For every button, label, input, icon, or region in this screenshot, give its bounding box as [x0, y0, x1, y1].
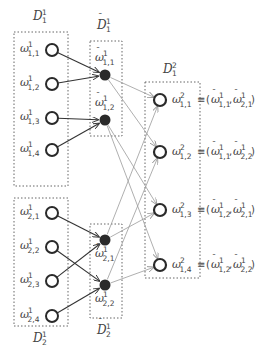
svg-text:2,3: 2,3 — [28, 280, 40, 289]
merged-label-wt12: ω¯11,2 — [95, 92, 115, 112]
output-node-o12 — [154, 146, 166, 158]
merged-node-wt22 — [100, 280, 111, 291]
svg-text:1,1: 1,1 — [28, 49, 40, 58]
input-label-w22: ω12,2 — [20, 237, 40, 255]
group-label-D1-1: D11 — [32, 8, 47, 25]
svg-text:¯: ¯ — [234, 89, 238, 98]
input-node-w21 — [46, 207, 58, 219]
svg-text:¯: ¯ — [212, 89, 216, 98]
edge-wt21-o13 — [110, 213, 154, 237]
svg-text:¯: ¯ — [96, 288, 100, 297]
svg-text:1,2: 1,2 — [180, 152, 192, 161]
labels: ω11,1ω11,2ω11,3ω11,4ω12,1ω12,2ω12,3ω12,4… — [20, 8, 255, 347]
output-node-o13 — [154, 204, 166, 216]
group-label-Dtilde2-1: D¯12 — [96, 317, 111, 339]
input-label-w23: ω12,3 — [20, 271, 40, 289]
input-node-w24 — [46, 310, 58, 322]
svg-text:,: , — [229, 94, 232, 105]
output-b-o13: ω¯12,1 — [233, 199, 253, 219]
input-node-w14 — [46, 144, 58, 156]
output-omega-o14: ω21,4 — [172, 256, 192, 274]
svg-text:): ) — [251, 259, 255, 270]
svg-text:1,4: 1,4 — [28, 149, 40, 158]
svg-text:¯: ¯ — [212, 141, 216, 150]
svg-text:,: , — [229, 204, 232, 215]
output-label-o12: ω21,2≡(ω¯11,1,ω¯12,2) — [172, 141, 255, 161]
svg-text:¯: ¯ — [98, 12, 103, 22]
svg-text:): ) — [251, 204, 255, 215]
edges — [57, 53, 158, 313]
input-label-w24: ω12,4 — [20, 306, 40, 324]
output-b-o14: ω¯12,2 — [233, 254, 253, 274]
svg-text:(: ( — [206, 259, 210, 270]
svg-text:¯: ¯ — [212, 254, 216, 263]
output-node-o14 — [154, 259, 166, 271]
svg-text:1,3: 1,3 — [180, 210, 192, 219]
svg-text:1,4: 1,4 — [180, 265, 192, 274]
group-label-D1-2: D21 — [162, 61, 177, 78]
output-label-o13: ω21,3≡(ω¯11,2,ω¯12,1) — [172, 199, 255, 219]
svg-text:¯: ¯ — [234, 254, 238, 263]
output-label-o11: ω21,1≡(ω¯11,1,ω¯12,1) — [172, 89, 255, 109]
svg-text:2,2: 2,2 — [103, 299, 115, 308]
svg-text:2,1: 2,1 — [28, 212, 40, 221]
edge-w13-wt12 — [58, 118, 98, 120]
svg-text:,: , — [229, 146, 232, 157]
svg-text:≡: ≡ — [197, 146, 205, 157]
group-box-D1-1 — [14, 32, 68, 186]
svg-text:): ) — [251, 146, 255, 157]
svg-text:¯: ¯ — [234, 141, 238, 150]
svg-text:): ) — [251, 94, 255, 105]
input-label-w12: ω11,2 — [20, 74, 40, 92]
edge-w12-wt11 — [58, 76, 98, 83]
edge-w11-wt11 — [57, 53, 98, 72]
edge-wt12-o14 — [107, 126, 157, 259]
edge-wt22-o14 — [111, 267, 154, 283]
output-label-o14: ω21,4≡(ω¯11,2,ω¯12,2) — [172, 254, 255, 274]
input-node-w22 — [46, 241, 58, 253]
group-label-Dtilde1-1: D¯11 — [96, 12, 111, 34]
input-label-w13: ω11,3 — [20, 108, 40, 126]
output-a-o13: ω¯11,2 — [211, 199, 231, 219]
input-node-w11 — [46, 44, 58, 56]
svg-text:≡: ≡ — [197, 259, 205, 270]
output-b-o12: ω¯12,2 — [233, 141, 253, 161]
input-label-w11: ω11,1 — [20, 40, 40, 58]
svg-text:1: 1 — [106, 25, 111, 34]
svg-text:2,4: 2,4 — [28, 315, 40, 324]
svg-text:¯: ¯ — [96, 243, 100, 252]
svg-text:¯: ¯ — [212, 199, 216, 208]
svg-text:1: 1 — [42, 16, 47, 25]
nodes — [46, 44, 166, 322]
svg-text:1: 1 — [172, 69, 177, 78]
output-a-o11: ω¯11,1 — [211, 89, 231, 109]
edge-wt11-o11 — [110, 77, 153, 97]
svg-text:(: ( — [206, 204, 210, 215]
svg-text:1,1: 1,1 — [180, 100, 192, 109]
svg-text:(: ( — [206, 94, 210, 105]
merged-node-wt11 — [100, 70, 111, 81]
svg-text:1,2: 1,2 — [28, 83, 40, 92]
edge-w21-wt21 — [57, 216, 98, 237]
output-omega-o13: ω21,3 — [172, 201, 192, 219]
input-label-w21: ω12,1 — [20, 203, 40, 221]
svg-text:≡: ≡ — [197, 204, 205, 215]
group-label-D2-1: D12 — [32, 330, 47, 347]
output-omega-o12: ω21,2 — [172, 143, 192, 161]
input-node-w23 — [46, 275, 58, 287]
svg-text:¯: ¯ — [234, 199, 238, 208]
merged-label-wt22: ω¯12,2 — [95, 288, 115, 308]
svg-text:¯: ¯ — [96, 47, 100, 56]
edge-w14-wt12 — [57, 123, 99, 147]
merged-label-wt21: ω¯12,1 — [95, 243, 115, 263]
edge-w23-wt21 — [57, 244, 100, 277]
input-node-w12 — [46, 78, 58, 90]
edge-w24-wt22 — [57, 289, 99, 313]
output-b-o11: ω¯12,1 — [233, 89, 253, 109]
svg-text:2: 2 — [106, 330, 111, 339]
merged-node-wt21 — [100, 235, 111, 246]
svg-text:2,1: 2,1 — [103, 254, 115, 263]
svg-text:2: 2 — [42, 338, 47, 347]
output-a-o12: ω¯11,1 — [211, 141, 231, 161]
input-label-w14: ω11,4 — [20, 140, 40, 158]
